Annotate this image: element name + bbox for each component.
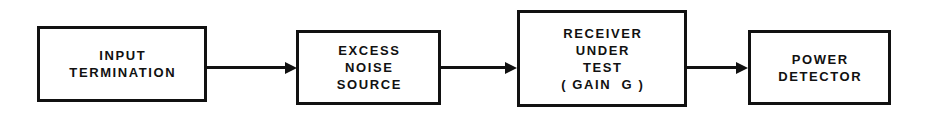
arrowhead-icon-noise-source-to-receiver [505,62,517,74]
block-excess-noise-source-line-2: NOISE [343,59,393,76]
arrowhead-icon-receiver-to-detector [736,62,748,74]
block-receiver-under-test-line-2: UNDER [574,42,630,59]
block-excess-noise-source: EXCESSNOISESOURCE [296,30,441,105]
block-power-detector: POWERDETECTOR [748,30,891,105]
block-receiver-under-test: RECEIVERUNDERTEST( GAIN G ) [517,10,687,107]
block-receiver-under-test-line-3: TEST [581,59,622,76]
block-receiver-under-test-line-1: RECEIVER [562,25,643,42]
block-input-termination-line-2: TERMINATION [68,64,177,81]
block-receiver-under-test-line-4: ( GAIN G ) [560,76,645,93]
block-diagram: INPUTTERMINATIONEXCESSNOISESOURCERECEIVE… [0,0,929,117]
block-power-detector-line-1: POWER [790,51,849,68]
connector-noise-source-to-receiver [441,66,505,69]
block-power-detector-line-2: DETECTOR [777,68,863,85]
block-input-termination-line-1: INPUT [98,47,147,64]
connector-receiver-to-detector [687,66,736,69]
block-input-termination: INPUTTERMINATION [37,26,207,102]
block-excess-noise-source-line-1: EXCESS [337,42,401,59]
connector-termination-to-noise-source [207,66,285,69]
arrowhead-icon-termination-to-noise-source [285,62,297,74]
block-excess-noise-source-line-3: SOURCE [335,76,402,93]
